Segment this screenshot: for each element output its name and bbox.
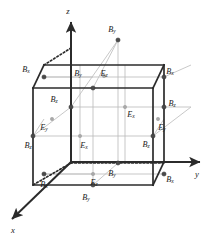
label-bz: Bz: [142, 140, 150, 149]
field-node-ex: [123, 105, 126, 108]
label-bx: Bx: [166, 175, 174, 184]
field-node-bz: [162, 105, 166, 109]
axis-y-label: y: [194, 169, 199, 179]
label-bz: Bz: [24, 141, 32, 150]
field-node-bz: [31, 134, 35, 138]
label-by: By: [108, 25, 116, 34]
field-node-by: [116, 38, 120, 42]
label-ex: Ex: [126, 110, 135, 119]
label-bz: Bz: [50, 95, 58, 104]
diagonal-guide-line: [93, 40, 118, 88]
label-ez: Ez: [99, 69, 108, 78]
cube-solid-edges: [33, 65, 164, 185]
label-bx: Bx: [166, 67, 174, 76]
axis-z-label: z: [65, 6, 70, 16]
label-by: By: [74, 69, 82, 78]
yee-cell-svg: ByBxBxByEzBzBzExEyEyBzBzExByBxBxEzBy zyx: [0, 0, 210, 243]
coordinate-axes: [12, 22, 200, 219]
field-node-ex: [78, 134, 81, 137]
yee-cell-figure: ByBxBxByEzBzBzExEyEyBzBzExByBxBxEzBy zyx: [0, 0, 210, 243]
label-by: By: [82, 193, 90, 202]
label-bz: Bz: [168, 99, 176, 108]
label-by: By: [108, 169, 116, 178]
diagonal-guide-line: [33, 107, 71, 136]
field-node-bz: [151, 134, 155, 138]
label-ey: Ey: [39, 123, 48, 132]
field-node-bx: [42, 75, 46, 79]
cube-hidden-edge: [44, 48, 71, 65]
label-ez: Ez: [89, 178, 98, 187]
field-node-by: [91, 86, 95, 90]
axis-x: [12, 162, 71, 219]
label-bx: Bx: [22, 65, 30, 74]
field-node-bz: [69, 105, 73, 109]
axis-x-label: x: [10, 225, 15, 235]
field-node-by: [116, 161, 120, 165]
label-ey: Ey: [157, 123, 166, 132]
field-node-bx: [42, 172, 46, 176]
label-ex: Ex: [79, 141, 88, 150]
field-node-ey: [156, 117, 159, 120]
field-node-ez: [91, 172, 94, 175]
axis-labels: zyx: [10, 6, 199, 235]
label-bx: Bx: [40, 180, 48, 189]
field-node-ey: [50, 117, 53, 120]
